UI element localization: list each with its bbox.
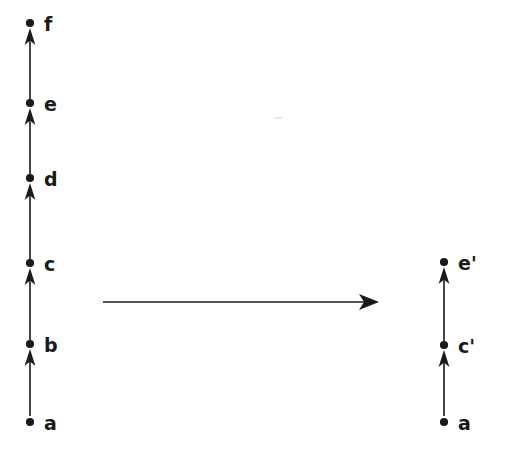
- target-chain-group: [439, 258, 450, 426]
- vertex-label-e: e: [44, 95, 57, 114]
- scan-artifact-speck: [274, 117, 282, 119]
- edge-c-to-d: [25, 183, 36, 259]
- edge-a-to-b: [25, 349, 36, 416]
- vertex-label-a: a: [44, 414, 57, 433]
- vertex-dot-f: [26, 19, 34, 27]
- edge-c2-to-e2: [439, 267, 450, 341]
- vertex-dot-a: [26, 418, 34, 426]
- vertex-dot-a-prime-base: [440, 418, 448, 426]
- diagram-vector-layer: [0, 0, 506, 468]
- vertex-dot-c: [26, 259, 34, 267]
- edge-a2-to-c2: [439, 350, 450, 416]
- vertex-dot-e-prime: [440, 258, 448, 266]
- vertex-label-f: f: [44, 15, 52, 34]
- vertex-dot-c-prime: [440, 341, 448, 349]
- vertex-label-a-target: a: [458, 414, 471, 433]
- edge-e-to-f: [25, 28, 36, 99]
- chain-map-arrow-group: [103, 294, 379, 310]
- vertex-dot-e: [26, 99, 34, 107]
- vertex-dot-d: [26, 174, 34, 182]
- vertex-label-c: c: [44, 255, 55, 274]
- vertex-label-e-prime: e': [458, 254, 477, 273]
- vertex-label-d: d: [44, 170, 58, 189]
- edge-b-to-c: [25, 268, 36, 340]
- vertex-dot-b: [26, 340, 34, 348]
- vertex-label-b: b: [44, 336, 58, 355]
- diagram-canvas: a b c d e f a c' e': [0, 0, 506, 468]
- vertex-label-c-prime: c': [458, 337, 475, 356]
- edge-d-to-e: [25, 108, 36, 174]
- source-chain-group: [25, 19, 36, 426]
